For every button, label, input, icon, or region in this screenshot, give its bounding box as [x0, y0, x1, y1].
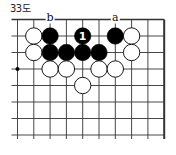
white-stone [75, 77, 91, 93]
stones: 1 [26, 28, 140, 94]
white-stone [26, 44, 42, 60]
hoshi-points [16, 67, 20, 71]
hoshi-point [16, 67, 20, 71]
black-stone [42, 44, 58, 60]
white-stone [91, 61, 107, 77]
point-label-a: a [112, 11, 119, 24]
white-stone [123, 44, 139, 60]
white-stone [42, 61, 58, 77]
black-stone [58, 44, 74, 60]
black-stone [75, 44, 91, 60]
white-stone [58, 61, 74, 77]
black-stone [107, 28, 123, 44]
point-label-b: b [47, 11, 54, 24]
black-stone [42, 28, 58, 44]
stone-move-number: 1 [79, 30, 87, 43]
white-stone [26, 28, 42, 44]
white-stone [123, 28, 139, 44]
go-board: ba 1 [0, 0, 176, 155]
black-stone [91, 44, 107, 60]
white-stone [107, 61, 123, 77]
